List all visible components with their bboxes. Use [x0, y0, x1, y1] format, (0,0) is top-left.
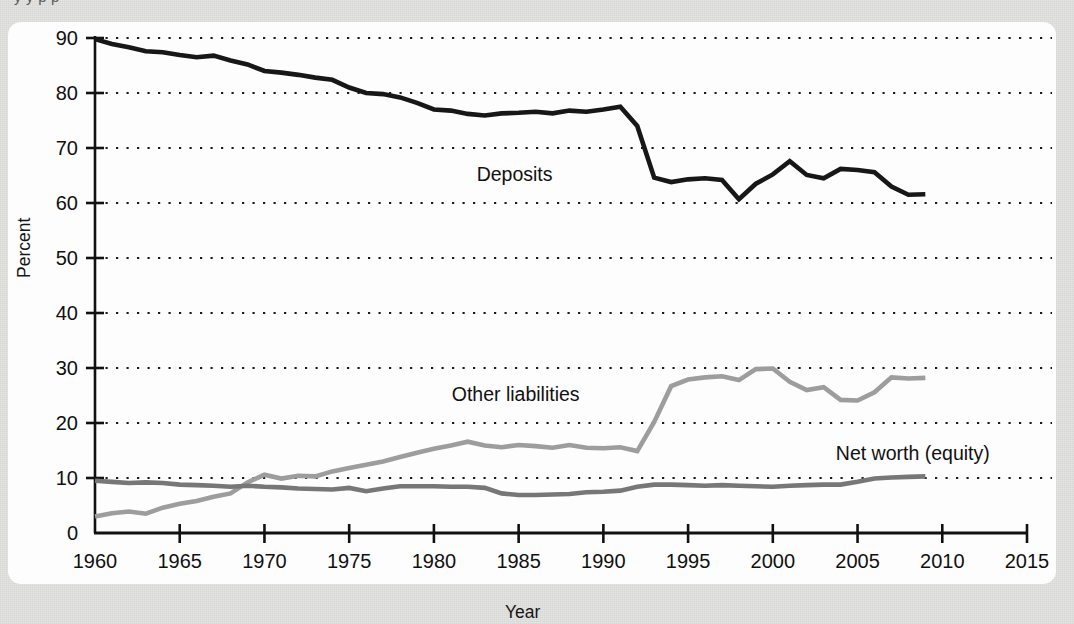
truncated-caption-text: y y p p: [14, 0, 60, 5]
series-line: [95, 476, 925, 495]
x-axis-tick-label: 1960: [73, 550, 118, 572]
y-axis-title: Percent: [14, 218, 35, 278]
x-axis-tick-label: 1985: [496, 550, 541, 572]
line-chart: 0102030405060708090196019651970197519801…: [8, 22, 1056, 584]
y-axis-tick-label: 60: [56, 192, 78, 214]
x-axis-tick-label: 2005: [835, 550, 880, 572]
series-annotation: Deposits: [477, 163, 553, 185]
series-annotation: Net worth (equity): [836, 442, 990, 464]
x-axis-tick-label: 1975: [327, 550, 372, 572]
series-annotation: Other liabilities: [452, 383, 580, 405]
y-axis-tick-label: 80: [56, 82, 78, 104]
x-axis-tick-label: 1995: [666, 550, 711, 572]
screenshot-root: y y p p 01020304050607080901960196519701…: [0, 0, 1074, 624]
x-axis-tick-label: 2015: [1005, 550, 1050, 572]
x-axis-title: Year: [505, 602, 540, 623]
x-axis-tick-label: 1990: [581, 550, 626, 572]
y-axis-tick-label: 0: [67, 522, 78, 544]
y-axis-tick-label: 30: [56, 357, 78, 379]
y-axis-tick-label: 70: [56, 137, 78, 159]
y-axis-tick-label: 10: [56, 467, 78, 489]
x-axis-tick-label: 2000: [751, 550, 796, 572]
truncated-caption-strip: y y p p: [0, 0, 1074, 14]
x-axis-tick-label: 2010: [920, 550, 965, 572]
x-axis-tick-label: 1965: [157, 550, 202, 572]
y-axis-tick-label: 50: [56, 247, 78, 269]
y-axis-tick-label: 40: [56, 302, 78, 324]
y-axis-tick-label: 20: [56, 412, 78, 434]
y-axis-tick-label: 90: [56, 27, 78, 49]
x-axis-tick-label: 1970: [242, 550, 287, 572]
chart-panel: 0102030405060708090196019651970197519801…: [8, 22, 1056, 584]
x-axis-tick-label: 1980: [412, 550, 457, 572]
